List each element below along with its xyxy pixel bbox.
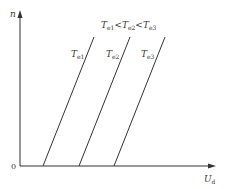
x-axis-arrow-icon <box>208 164 216 169</box>
diagram-canvas: n 0 Ud Te1<Te2<Te3 Te1 Te2 Te3 <box>0 0 230 189</box>
curve-label-te2: Te2 <box>106 49 120 60</box>
curve-label-te3: Te3 <box>141 49 155 60</box>
curve-te3 <box>114 37 165 166</box>
y-axis-label: n <box>10 9 16 19</box>
curve-label-te1: Te1 <box>71 49 84 60</box>
y-axis-arrow-icon <box>18 10 23 18</box>
origin-label: 0 <box>11 162 16 171</box>
x-axis-label: Ud <box>204 174 216 185</box>
relation-label: Te1<Te2<Te3 <box>101 20 156 31</box>
